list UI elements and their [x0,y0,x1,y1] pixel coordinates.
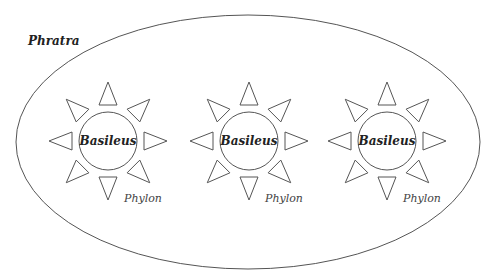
basileus-label: Basileus [79,134,137,148]
ray-triangle-icon [66,160,89,183]
phylon-label: Phylon [123,192,162,205]
ray-triangle-icon [406,160,429,183]
phylon-label: Phylon [402,192,441,205]
basileus-label: Basileus [358,134,416,148]
phylon-unit: BasileusPhylon [49,82,167,205]
ray-triangle-icon [127,160,150,183]
ray-triangle-icon [240,82,258,105]
phylon-unit: BasileusPhylon [328,82,446,205]
ray-triangle-icon [345,160,368,183]
ray-triangle-icon [423,132,446,150]
ray-triangle-icon [268,160,291,183]
ray-triangle-icon [285,132,308,150]
ray-triangle-icon [406,99,429,122]
diagram-canvas: Phratra BasileusPhylonBasileusPhylonBasi… [0,0,499,280]
ray-triangle-icon [328,132,351,150]
ray-triangle-icon [378,177,396,200]
phylon-unit: BasileusPhylon [190,82,308,205]
ray-triangle-icon [345,99,368,122]
units-group: BasileusPhylonBasileusPhylonBasileusPhyl… [49,82,446,205]
ray-triangle-icon [99,177,117,200]
ray-triangle-icon [99,82,117,105]
ray-triangle-icon [190,132,213,150]
ray-triangle-icon [127,99,150,122]
ray-triangle-icon [66,99,89,122]
ray-triangle-icon [207,160,230,183]
ray-triangle-icon [207,99,230,122]
ray-triangle-icon [144,132,167,150]
ray-triangle-icon [49,132,72,150]
phratra-label: Phratra [27,34,80,48]
phylon-label: Phylon [264,192,303,205]
ray-triangle-icon [268,99,291,122]
ray-triangle-icon [378,82,396,105]
basileus-label: Basileus [220,134,278,148]
ray-triangle-icon [240,177,258,200]
